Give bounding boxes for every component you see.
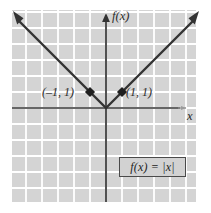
graph-canvas bbox=[0, 0, 211, 213]
absolute-value-graph-figure: f(x) x (–1, 1) (1, 1) f(x) = |x| bbox=[0, 0, 211, 213]
x-axis-label: x bbox=[187, 110, 193, 123]
y-axis-label: f(x) bbox=[112, 10, 129, 23]
equation-box: f(x) = |x| bbox=[119, 157, 186, 177]
equation-text: f(x) = |x| bbox=[130, 160, 175, 175]
point-label-right: (1, 1) bbox=[126, 86, 152, 98]
point-label-left: (–1, 1) bbox=[42, 86, 74, 98]
